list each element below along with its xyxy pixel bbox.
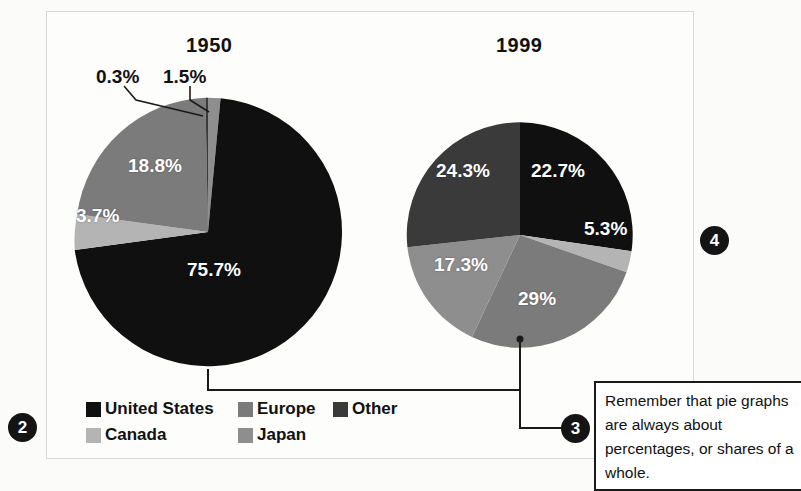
callout-box: Remember that pie graphs are always abou… — [594, 381, 801, 491]
legend-swatch-japan — [238, 428, 253, 443]
pie-1999-label-europe: 29% — [518, 288, 556, 310]
legend-row-2: Canada Japan — [86, 422, 426, 448]
legend-label-united-states: United States — [105, 399, 214, 419]
annotation-badge-2[interactable]: 2 — [8, 413, 37, 442]
pie-1950-label-japan: 1.5% — [163, 66, 206, 88]
pie-chart-1950 — [71, 95, 345, 369]
legend-label-japan: Japan — [257, 425, 306, 445]
pie-1950-label-canada: 3.7% — [76, 205, 119, 227]
pie-1999-label-united-states: 22.7% — [531, 160, 585, 182]
chart-legend: United States Europe Other Canada Japan — [86, 396, 426, 448]
slice-1999-other — [407, 122, 520, 247]
legend-label-europe: Europe — [257, 399, 316, 419]
callout-text: Remember that pie graphs are always abou… — [605, 389, 795, 485]
legend-row-1: United States Europe Other — [86, 396, 426, 422]
legend-item-canada[interactable]: Canada — [86, 425, 238, 445]
legend-item-united-states[interactable]: United States — [86, 399, 238, 419]
legend-label-canada: Canada — [105, 425, 166, 445]
pie-title-1950: 1950 — [186, 34, 233, 57]
pie-title-1999: 1999 — [496, 34, 543, 57]
legend-item-europe[interactable]: Europe — [238, 399, 333, 419]
annotation-badge-4[interactable]: 4 — [700, 226, 729, 255]
pie-1999-label-canada: 5.3% — [584, 218, 627, 240]
pie-1999-label-other: 24.3% — [436, 160, 490, 182]
pie-1950-svg — [71, 95, 345, 369]
legend-swatch-united-states — [86, 402, 101, 417]
figure-page: 1950 1999 0.3% 1.5% 18.8% 3.7% 75.7% — [0, 0, 801, 491]
pie-1950-label-united-states: 75.7% — [187, 259, 241, 281]
legend-swatch-europe — [238, 402, 253, 417]
legend-item-japan[interactable]: Japan — [238, 425, 333, 445]
pie-1950-label-europe: 18.8% — [128, 155, 182, 177]
legend-swatch-other — [333, 402, 348, 417]
annotation-badge-3[interactable]: 3 — [561, 414, 590, 443]
legend-swatch-canada — [86, 428, 101, 443]
legend-item-other[interactable]: Other — [333, 399, 423, 419]
legend-label-other: Other — [352, 399, 397, 419]
pie-1999-label-japan: 17.3% — [434, 254, 488, 276]
pie-1950-label-other: 0.3% — [96, 66, 139, 88]
